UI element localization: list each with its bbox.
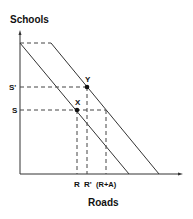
tick-r: R bbox=[74, 180, 80, 189]
tick-r-prime: R' bbox=[84, 180, 92, 189]
x-axis-label: Roads bbox=[88, 197, 119, 208]
x-axis-arrow-icon bbox=[178, 173, 183, 176]
tick-r-plus-a: (R+A) bbox=[96, 180, 117, 189]
point-x-marker bbox=[75, 108, 80, 113]
point-y-marker bbox=[85, 85, 90, 90]
tick-s-prime: S' bbox=[9, 83, 16, 92]
original-frontier-line bbox=[20, 43, 129, 174]
diagram-canvas: Schools Roads Y X S' S R R' (R+A) bbox=[0, 0, 193, 219]
y-axis-arrow-icon bbox=[19, 30, 22, 35]
point-y-label: Y bbox=[85, 75, 91, 84]
shifted-frontier-line bbox=[51, 43, 159, 174]
y-axis-label: Schools bbox=[10, 14, 49, 25]
tick-s: S bbox=[12, 106, 18, 115]
point-x-label: X bbox=[75, 98, 81, 107]
